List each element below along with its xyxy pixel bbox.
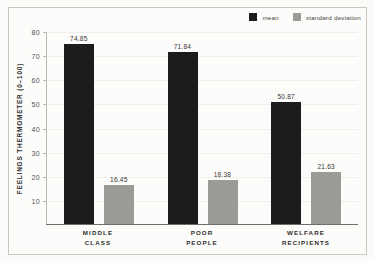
bar-value-label: 16.45: [110, 176, 128, 183]
y-axis-tick-label: 20: [32, 173, 40, 180]
y-axis-tick-label: 40: [32, 125, 40, 132]
category-label: WELFARERECIPIENTS: [254, 228, 358, 247]
bar-mean[interactable]: [64, 44, 94, 224]
plot-area: 1020304050607080 74.8516.4571.8418.3850.…: [46, 32, 358, 225]
bar-column: 21.63: [311, 32, 341, 224]
bar-value-label: 50.87: [277, 93, 295, 100]
bar-standard-deviation[interactable]: [208, 180, 238, 224]
bar-value-label: 18.38: [214, 171, 232, 178]
bar-standard-deviation[interactable]: [311, 172, 341, 224]
bar-mean[interactable]: [168, 52, 198, 224]
chart-legend: mean standard deviation: [249, 13, 361, 21]
category-label: MIDDLECLASS: [46, 228, 150, 247]
bar-column: 71.84: [168, 32, 198, 224]
category-label-line: CLASS: [46, 238, 150, 248]
legend-swatch-mean: [249, 13, 257, 21]
legend-swatch-standard-deviation: [293, 13, 301, 21]
category-label-line: POOR: [150, 228, 254, 238]
legend-label-standard-deviation: standard deviation: [306, 14, 361, 21]
y-axis-tick-label: 30: [32, 149, 40, 156]
bar-group: 50.8721.63: [254, 32, 358, 224]
chart-figure: mean standard deviation FEELINGS THERMOM…: [0, 0, 375, 262]
y-axis-tick-label: 80: [32, 29, 40, 36]
bar-group: 71.8418.38: [151, 32, 255, 224]
y-axis-tick-label: 50: [32, 101, 40, 108]
bar-column: 18.38: [208, 32, 238, 224]
y-axis-tick-label: 10: [32, 197, 40, 204]
y-axis-tick-label: 70: [32, 53, 40, 60]
category-label: POORPEOPLE: [150, 228, 254, 247]
bar-mean[interactable]: [271, 102, 301, 224]
bar-value-label: 21.63: [317, 163, 335, 170]
legend-entry-mean: mean: [249, 13, 278, 21]
category-labels: MIDDLECLASSPOORPEOPLEWELFARERECIPIENTS: [46, 228, 358, 247]
legend-entry-standard-deviation: standard deviation: [293, 13, 361, 21]
bar-column: 50.87: [271, 32, 301, 224]
bar-groups: 74.8516.4571.8418.3850.8721.63: [47, 32, 358, 224]
bar-group: 74.8516.45: [47, 32, 151, 224]
y-axis-tick-label: 60: [32, 77, 40, 84]
y-axis-title: FEELINGS THERMOMETER (0–100): [14, 32, 26, 225]
category-label-line: WELFARE: [254, 228, 358, 238]
category-label-line: PEOPLE: [150, 238, 254, 248]
x-axis-line: [46, 224, 358, 225]
bar-standard-deviation[interactable]: [104, 185, 134, 224]
bar-column: 16.45: [104, 32, 134, 224]
bar-column: 74.85: [64, 32, 94, 224]
category-label-line: RECIPIENTS: [254, 238, 358, 248]
category-label-line: MIDDLE: [46, 228, 150, 238]
bar-value-label: 71.84: [174, 43, 192, 50]
legend-label-mean: mean: [262, 14, 278, 21]
y-axis-title-text: FEELINGS THERMOMETER (0–100): [17, 63, 24, 194]
bar-value-label: 74.85: [70, 35, 88, 42]
